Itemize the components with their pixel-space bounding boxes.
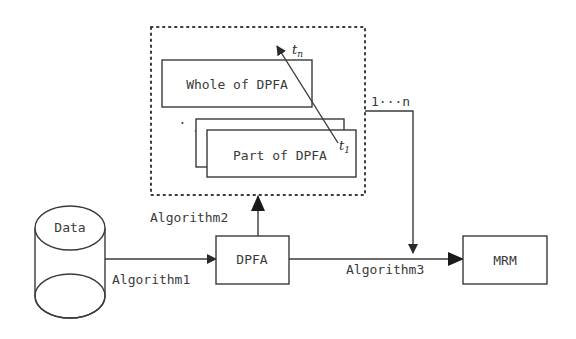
- algorithm2-label: Algorithm2: [150, 210, 228, 225]
- dpfa-node: DPFA: [216, 236, 289, 284]
- multi-label: 1···n: [371, 94, 410, 109]
- data-label: Data: [54, 220, 85, 235]
- diagram-canvas: Whole of DPFA · · · Part of DPFA tn t1 1…: [0, 0, 576, 339]
- part-of-dpfa-label: Part of DPFA: [233, 148, 327, 163]
- dpfa-label: DPFA: [236, 252, 267, 267]
- whole-of-dpfa-label: Whole of DPFA: [186, 77, 288, 92]
- algorithm3-label: Algorithm3: [346, 262, 424, 277]
- multi-connector: [365, 111, 413, 253]
- algorithm1-label: Algorithm1: [112, 272, 190, 287]
- mrm-label: MRM: [493, 253, 517, 268]
- part-of-dpfa-node: Part of DPFA: [196, 119, 356, 177]
- mrm-node: MRM: [463, 236, 547, 284]
- time-end-label: tn: [292, 42, 303, 59]
- data-node: Data: [35, 206, 105, 318]
